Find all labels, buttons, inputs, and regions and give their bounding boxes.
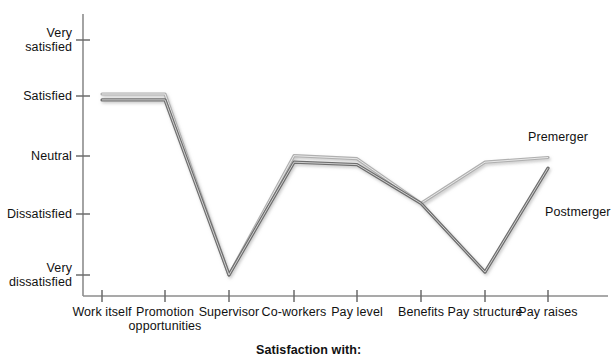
series-line-premerger <box>102 94 548 275</box>
y-tick-label-dissatisfied: Dissatisfied <box>0 207 72 221</box>
series-highlight-premerger <box>102 94 548 275</box>
series-label-postmerger: Postmerger <box>545 205 611 219</box>
chart-container: Very satisfied Satisfied Neutral Dissati… <box>0 0 616 362</box>
y-tick-label-satisfied: Satisfied <box>6 89 72 103</box>
x-axis-title: Satisfaction with: <box>256 343 361 357</box>
x-tick-label-pay-raises: Pay raises <box>503 305 593 319</box>
y-tick-label-neutral: Neutral <box>6 149 72 163</box>
data-series-group <box>102 94 548 275</box>
y-tick-label-very-dissatisfied: Very dissatisfied <box>0 261 72 289</box>
y-tick-label-very-satisfied: Very satisfied <box>6 26 72 54</box>
axis-lines <box>83 14 608 296</box>
series-label-premerger: Premerger <box>528 130 588 144</box>
series-highlight-postmerger <box>102 100 548 275</box>
series-line-postmerger <box>102 100 548 275</box>
